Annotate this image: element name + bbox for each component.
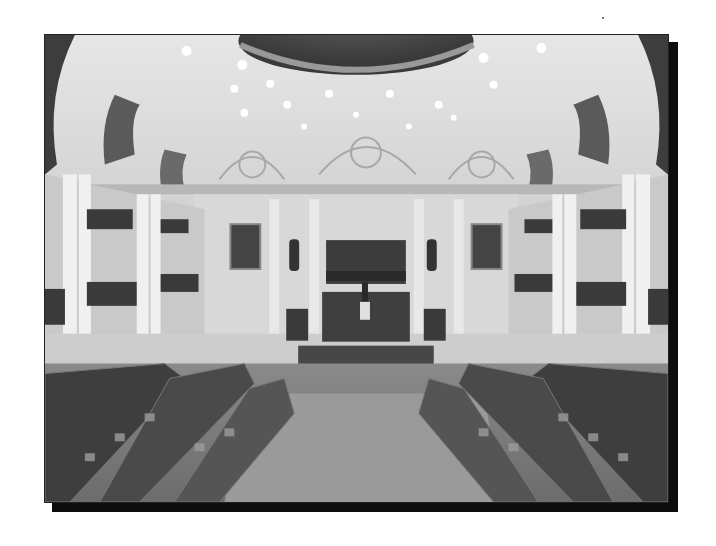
statue-right — [427, 239, 437, 271]
statue-left — [289, 239, 299, 271]
flag — [360, 302, 370, 320]
door-right — [424, 309, 446, 341]
portrait-right — [472, 224, 502, 269]
portrait-left — [230, 224, 260, 269]
stray-dot — [602, 17, 604, 19]
chamber-illustration — [45, 35, 668, 502]
door-left — [286, 309, 308, 341]
chamber-photo — [44, 34, 669, 503]
